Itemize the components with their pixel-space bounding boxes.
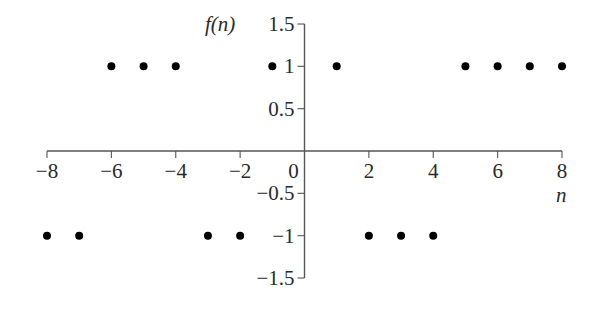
y-axis-label: f(n) (205, 12, 235, 36)
x-axis-ticks: −8−6−4−202468 (36, 151, 567, 183)
data-point (461, 62, 469, 70)
data-point (558, 62, 566, 70)
axes (47, 24, 562, 278)
data-point (397, 232, 405, 240)
y-tick-label: 0.5 (268, 97, 294, 121)
x-tick-label: 0 (288, 159, 299, 183)
y-tick-label: −0.5 (256, 181, 294, 205)
data-point (333, 62, 341, 70)
data-point (204, 232, 212, 240)
x-tick-label: −2 (229, 159, 251, 183)
data-point (429, 232, 437, 240)
data-point (75, 232, 83, 240)
data-point (365, 232, 373, 240)
y-tick-label: 1 (284, 54, 295, 78)
data-point (172, 62, 180, 70)
y-tick-label: −1.5 (256, 266, 294, 290)
x-tick-label: 2 (364, 159, 375, 183)
x-tick-label: 6 (492, 159, 503, 183)
x-tick-label: 8 (557, 159, 568, 183)
x-tick-label: −4 (165, 159, 188, 183)
y-tick-label: 1.5 (268, 12, 294, 36)
data-point (43, 232, 51, 240)
data-point (526, 62, 534, 70)
discrete-signal-chart: −8−6−4−202468 1.510.5−0.5−1−1.5 f(n) n (0, 0, 596, 323)
data-point (236, 232, 244, 240)
data-point (268, 62, 276, 70)
data-point (107, 62, 115, 70)
x-axis-label: n (556, 183, 567, 207)
data-point (140, 62, 148, 70)
x-tick-label: −8 (36, 159, 58, 183)
y-tick-label: −1 (272, 224, 294, 248)
x-tick-label: 4 (428, 159, 439, 183)
data-point (494, 62, 502, 70)
x-tick-label: −6 (100, 159, 122, 183)
